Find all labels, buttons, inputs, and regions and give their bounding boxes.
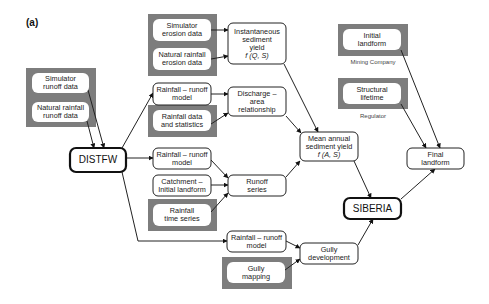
nodes: Simulatorrunoff dataNatural rainfallruno… (32, 19, 464, 283)
node-final-landform: Finallandform (407, 148, 464, 169)
panel-label: (a) (26, 17, 38, 28)
node-siberia: SIBERIA (344, 198, 401, 219)
arrow-siberia-to-final-landform (401, 169, 435, 199)
node-label: landform (358, 39, 386, 48)
node-label: runoff data (43, 82, 79, 91)
node-label: and statistics (161, 120, 204, 129)
node-sim-erosion: Simulatorerosion data (153, 19, 211, 41)
node-label: lifetime (360, 93, 383, 102)
arrow-rr-model-mid-to-runoff-series (211, 160, 228, 178)
node-gully-dev: Gullydevelopment (300, 243, 358, 264)
node-label: runoff data (43, 111, 79, 120)
node-initial-landform: Initiallandform (343, 29, 401, 50)
node-label: development (308, 253, 350, 262)
node-inst-yield: Instantaneoussedimentyieldf (Q, S) (228, 23, 286, 64)
node-rain-stats: Rainfall dataand statistics (153, 110, 211, 131)
arrow-structural-lifetime-to-final-landform (401, 104, 426, 148)
node-label: Initial landform (158, 185, 205, 194)
node-label: SIBERIA (353, 203, 393, 214)
node-label: mapping (242, 272, 270, 281)
node-label: time series (164, 214, 200, 223)
node-nat-erosion: Natural rainfallerosion data (153, 48, 211, 70)
node-rr-model-bot: Rainfall – runoffmodel (227, 231, 286, 252)
node-label: series (247, 185, 267, 194)
arrow-gully-dev-to-siberia (358, 219, 373, 245)
node-label: DISTFW (79, 154, 118, 165)
node-label: model (172, 158, 192, 167)
node-discharge-area: Discharge –arearelationship (228, 87, 286, 116)
node-distfw: DISTFW (70, 148, 126, 172)
node-mean-yield: Mean annualsediment yieldf (A, S) (300, 132, 358, 161)
caption-regulator: Regulator (360, 113, 386, 119)
node-label: f (A, S) (318, 150, 341, 159)
node-gully-mapping: Gullymapping (227, 262, 285, 283)
node-catchment: Catchment –Initial landform (153, 175, 211, 196)
arrow-discharge-area-to-mean-yield (286, 116, 301, 133)
node-label: f (Q, S) (245, 51, 269, 60)
caption-mining-company: Mining Company (350, 59, 395, 65)
node-label: relationship (238, 105, 275, 114)
node-nat-runoff: Natural rainfallrunoff data (32, 102, 89, 122)
arrow-inst-yield-to-mean-yield (284, 64, 318, 132)
node-runoff-series: Runoffseries (228, 175, 286, 196)
node-rr-model-mid: Rainfall – runoffmodel (153, 148, 211, 169)
node-sim-runoff: Simulatorrunoff data (32, 73, 89, 93)
node-label: model (247, 241, 267, 250)
node-label: erosion data (162, 29, 203, 38)
node-label: erosion data (162, 58, 203, 67)
arrow-rr-model-bot-to-gully-dev (286, 241, 300, 248)
node-rain-time: Rainfalltime series (153, 204, 211, 226)
node-structural-lifetime: Structurallifetime (343, 83, 401, 104)
node-label: model (172, 93, 192, 102)
arrow-runoff-series-to-mean-yield (286, 161, 300, 177)
arrow-mean-yield-to-siberia (354, 161, 371, 198)
node-rr-model-top: Rainfall – runoffmodel (153, 83, 211, 105)
flow-diagram: (a) Simulatorrunoff dataNatural rainfall… (0, 0, 489, 304)
node-label: landform (421, 158, 449, 167)
